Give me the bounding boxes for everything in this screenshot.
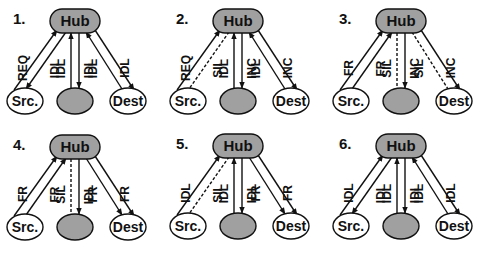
edge-label: INC [444,57,458,78]
hub-label: Hub [386,12,415,29]
src-label: Src. [338,218,364,234]
hub-label: Hub [60,12,89,29]
edge-label: FR [86,186,100,202]
panel-1: 1.REQIDLIDLIDLIDLIDLHubSrc.Dest [7,9,146,114]
edge-label: IDL [118,58,132,77]
hub-label: Hub [223,12,252,29]
dest-label: Dest [439,218,470,234]
panel-5: 5.IDLSILIDLIDLFRFRHubSrc.Dest [170,134,309,239]
hub-label: Hub [386,137,415,154]
edge-label: IDL [217,59,231,78]
edge-hub-to-dest-fr [95,156,134,216]
panel-3: 3.FRFRSILINCSILINCHubSrc.Dest [333,9,472,114]
src-label: Src. [338,93,364,109]
dest-label: Dest [276,218,307,234]
panel-number: 5. [176,135,189,152]
src-label: Src. [12,219,38,235]
panel-number: 1. [13,10,26,27]
edge-label: REQ [16,55,30,81]
hub-label: Hub [223,137,252,154]
edge-label: IDL [217,184,231,203]
edge-label: SIL [412,59,426,78]
edge-label: IDL [179,183,193,202]
dest-label: Dest [113,93,144,109]
panel-number: 6. [339,135,352,152]
edge-label: IDL [380,184,394,203]
dest-label: Dest [113,219,144,235]
hub-protocol-diagram: 1.REQIDLIDLIDLIDLIDLHubSrc.Dest2.REQSILI… [0,0,479,259]
edge-label: REQ [179,55,193,81]
edge-label: IDL [54,59,68,78]
edge-label: FR [342,60,356,76]
panels-container: 1.REQIDLIDLIDLIDLIDLHubSrc.Dest2.REQSILI… [7,9,472,240]
dest-label: Dest [276,93,307,109]
panel-number: 4. [13,136,26,153]
dest-label: Dest [439,93,470,109]
mid-node [57,88,93,114]
edge-label: IDL [444,183,458,202]
edge-src-to-hub-fr [14,156,57,216]
src-label: Src. [12,93,38,109]
src-label: Src. [175,218,201,234]
hub-label: Hub [60,138,89,155]
mid-node [383,213,419,239]
mid-node [383,88,419,114]
panel-number: 2. [176,10,189,27]
edge-label: IDL [342,183,356,202]
edge-label: FR [118,186,132,202]
edge-label: FR [249,185,263,201]
edge-label: INC [281,57,295,78]
mid-node [220,213,256,239]
edge-hub-to-dest-fr [258,155,297,215]
mid-node [57,214,93,240]
src-label: Src. [175,93,201,109]
edge-label: IDL [249,59,263,78]
edge-label: FR [281,185,295,201]
edge-label: FR [16,186,30,202]
edge-label: IDL [86,59,100,78]
panel-6: 6.IDLIDLIDLIDLIDLIDLHubSrc.Dest [333,134,472,239]
panel-2: 2.REQSILIDLINCIDLINCHubSrc.Dest [170,9,309,114]
mid-node [220,88,256,114]
edge-label: IDL [412,184,426,203]
edge-label: SIL [380,59,394,78]
panel-number: 3. [339,10,352,27]
panel-4: 4.FRFRSILIDLFRFRHubSrc.Dest [7,135,146,240]
edge-src-to-hub-fr [340,30,383,90]
edge-label: SIL [54,185,68,204]
